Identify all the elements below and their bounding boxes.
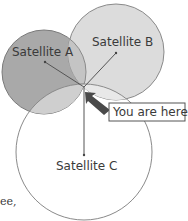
satellite-c-label: Satellite C — [56, 159, 117, 173]
satellite-a-center-dot — [44, 61, 46, 63]
trilateration-diagram: Satellite A Satellite B Satellite C You … — [0, 0, 188, 221]
truncated-caption-text: ee, — [0, 195, 17, 208]
satellite-b-label: Satellite B — [92, 35, 153, 49]
satellite-b-center-dot — [115, 52, 117, 54]
you-are-here-label: You are here — [112, 105, 188, 119]
satellite-a-label: Satellite A — [12, 45, 74, 59]
satellite-c-center-dot — [83, 154, 85, 156]
